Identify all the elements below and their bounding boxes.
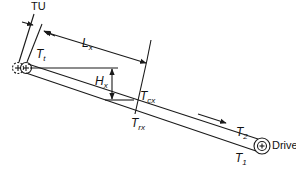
height-label: Hx <box>95 75 108 90</box>
tail-tension-label: Tt <box>36 48 46 63</box>
slack-side-tension-label: T1 <box>235 152 247 167</box>
return-tension-label: Trx <box>131 117 145 132</box>
carry-tension-label: Tcx <box>140 90 155 105</box>
lx-extension-right <box>135 60 147 114</box>
lx-dimension-arrow <box>45 32 146 63</box>
tight-side-tension-label: T2 <box>236 126 248 141</box>
length-label: Lx <box>82 37 93 52</box>
take-up-label: TU <box>31 1 46 12</box>
travel-direction-arrow <box>198 114 226 123</box>
diagram-lines <box>0 0 296 171</box>
lx-extension-right-top <box>147 40 151 60</box>
drive-label: Drive <box>272 140 296 151</box>
tu-extension-left <box>19 14 34 62</box>
